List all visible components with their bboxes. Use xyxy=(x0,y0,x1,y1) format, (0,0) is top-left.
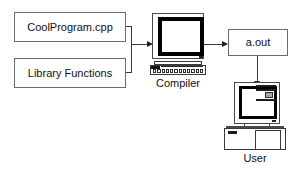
compiler-computer: Compiler xyxy=(150,13,206,89)
case-drive-bay xyxy=(255,130,281,150)
keyboard-key xyxy=(170,69,173,73)
user-caption: User xyxy=(224,152,286,164)
connector-merge-vertical xyxy=(131,26,132,73)
keyboard-row-line xyxy=(161,66,203,67)
keyboard-key xyxy=(174,69,177,73)
user-desktop-case-icon xyxy=(224,128,286,150)
keyboard-key xyxy=(179,69,182,73)
keyboard-key xyxy=(153,69,156,73)
compiler-monitor-icon xyxy=(152,13,204,59)
keyboard-key xyxy=(191,69,194,73)
drive-eject-button-icon xyxy=(265,92,273,98)
compiler-power-led-icon xyxy=(199,56,203,58)
keyboard-key xyxy=(200,69,203,73)
executable-label: a.out xyxy=(246,37,270,48)
source-file-box: CoolProgram.cpp xyxy=(14,12,126,42)
executable-box: a.out xyxy=(228,29,288,56)
compiler-screen xyxy=(162,21,200,52)
compiler-caption: Compiler xyxy=(150,77,206,89)
keyboard-key xyxy=(162,69,165,73)
case-vent-icon xyxy=(228,131,237,134)
keyboard-key xyxy=(183,69,186,73)
drive-slot-icon xyxy=(256,99,276,101)
library-functions-box: Library Functions xyxy=(14,58,126,88)
library-functions-label: Library Functions xyxy=(28,68,112,79)
keyboard-key xyxy=(166,69,169,73)
compiler-keyboard-icon xyxy=(150,61,206,75)
diagram-canvas: CoolProgram.cpp Library Functions xyxy=(0,0,300,169)
user-computer: User xyxy=(224,82,286,167)
keyboard-keys xyxy=(153,69,203,73)
user-power-led-icon xyxy=(272,120,276,122)
source-file-label: CoolProgram.cpp xyxy=(27,22,113,33)
drive-slot-icon xyxy=(256,85,276,87)
connector-executable-to-user xyxy=(257,56,258,82)
connector-junction-to-compiler xyxy=(131,44,147,45)
keyboard-key xyxy=(187,69,190,73)
keyboard-key xyxy=(157,69,160,73)
keyboard-key xyxy=(196,69,199,73)
drive-slot-icon xyxy=(256,89,276,91)
